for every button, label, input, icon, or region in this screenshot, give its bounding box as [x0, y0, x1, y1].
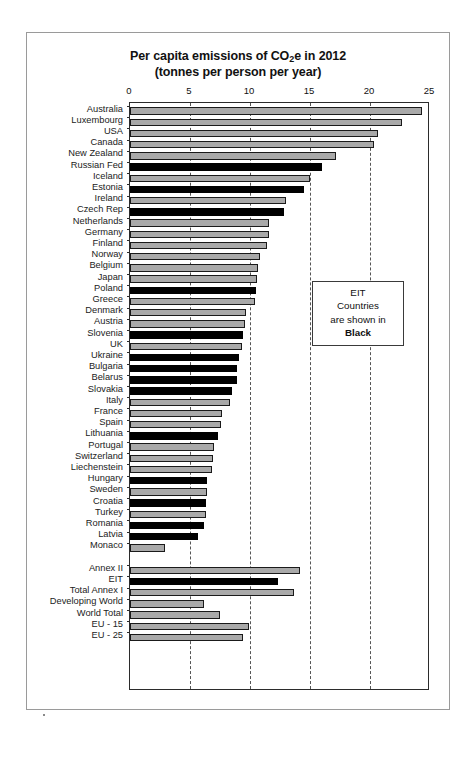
bar-row	[130, 229, 428, 240]
bar-japan	[130, 275, 257, 282]
x-axis-tick-labels: 0510152025	[27, 85, 451, 101]
bar-row	[130, 117, 428, 128]
category-label-japan: Japan	[98, 272, 123, 283]
bar-greece	[130, 298, 255, 305]
bar-row	[130, 263, 428, 274]
bar-row	[130, 431, 428, 442]
legend-line-1: EIT	[319, 286, 396, 300]
category-label-estonia: Estonia	[92, 182, 123, 193]
bar-sweden	[130, 488, 207, 495]
bar-ireland	[130, 197, 286, 204]
bar-row	[130, 420, 428, 431]
category-label-canada: Canada	[90, 137, 123, 148]
category-label-ukraine: Ukraine	[91, 350, 123, 361]
bar-portugal	[130, 443, 214, 450]
bar-row	[130, 442, 428, 453]
category-label-norway: Norway	[91, 249, 123, 260]
bar-row	[130, 140, 428, 151]
bar-row	[130, 240, 428, 251]
x-tick-label-5: 5	[186, 85, 191, 96]
bar-row	[130, 386, 428, 397]
bar-denmark	[130, 309, 246, 316]
bar-uk	[130, 343, 242, 350]
category-label-developing-world: Developing World	[50, 596, 123, 607]
bar-row	[130, 588, 428, 599]
bar-liechenstein	[130, 466, 212, 473]
bar-total-annex-i	[130, 589, 294, 596]
scanned-page-frame: Per capita emissions of CO2e in 2012 (to…	[26, 32, 450, 710]
bar-romania	[130, 522, 204, 529]
bar-row	[130, 207, 428, 218]
bar-developing-world	[130, 600, 204, 607]
bar-spain	[130, 421, 221, 428]
category-label-portugal: Portugal	[88, 440, 123, 451]
category-label-russian-fed: Russian Fed	[71, 160, 123, 171]
category-label-bulgaria: Bulgaria	[89, 361, 123, 372]
bar-norway	[130, 253, 260, 260]
bar-australia	[130, 107, 422, 114]
bar-row	[130, 196, 428, 207]
bar-world-total	[130, 611, 220, 618]
bar-russian-fed	[130, 163, 322, 170]
bar-germany	[130, 231, 269, 238]
bar-monaco	[130, 544, 165, 551]
bar-netherlands	[130, 219, 269, 226]
bar-row	[130, 408, 428, 419]
bar-rows	[130, 103, 428, 689]
category-label-lithuania: Lithuania	[85, 428, 123, 439]
bar-row	[130, 532, 428, 543]
category-label-belgium: Belgium	[89, 260, 123, 271]
category-label-greece: Greece	[93, 294, 124, 305]
bar-switzerland	[130, 455, 213, 462]
bar-luxembourg	[130, 119, 402, 126]
plot-wrapper: 0510152025 AustraliaLuxembourgUSACanadaN…	[27, 85, 451, 697]
co2-subscript: 2	[289, 54, 294, 64]
category-label-germany: Germany	[85, 227, 123, 238]
category-label-hungary: Hungary	[88, 473, 123, 484]
category-label-australia: Australia	[87, 104, 123, 115]
scan-speck	[43, 714, 45, 716]
bar-belgium	[130, 264, 258, 271]
bar-ukraine	[130, 354, 239, 361]
bar-row	[130, 554, 428, 565]
category-label-world-total: World Total	[77, 608, 123, 619]
bar-new-zealand	[130, 152, 336, 159]
category-label-iceland: Iceland	[93, 171, 123, 182]
bar-row	[130, 487, 428, 498]
bar-row	[130, 218, 428, 229]
category-label-croatia: Croatia	[93, 496, 123, 507]
category-label-eu---15: EU - 15	[91, 619, 123, 630]
category-label-uk: UK	[110, 339, 123, 350]
bar-row	[130, 364, 428, 375]
bar-row	[130, 576, 428, 587]
bar-row	[130, 498, 428, 509]
x-tick-label-25: 25	[424, 85, 435, 96]
bar-row	[130, 565, 428, 576]
bar-row	[130, 476, 428, 487]
category-label-romania: Romania	[86, 518, 123, 529]
bar-row	[130, 106, 428, 117]
category-label-belarus: Belarus	[91, 372, 123, 383]
bar-belarus	[130, 376, 237, 383]
category-label-eu---25: EU - 25	[91, 630, 123, 641]
category-label-total-annex-i: Total Annex I	[70, 585, 123, 596]
x-tick-label-10: 10	[244, 85, 255, 96]
category-label-austria: Austria	[94, 316, 123, 327]
bar-row	[130, 621, 428, 632]
chart-title: Per capita emissions of CO2e in 2012 (to…	[27, 49, 449, 80]
bar-usa	[130, 130, 378, 137]
bar-eu---25	[130, 634, 243, 641]
category-label-usa: USA	[104, 126, 123, 137]
bar-row	[130, 352, 428, 363]
bar-latvia	[130, 533, 198, 540]
category-label-france: France	[94, 406, 123, 417]
bar-row	[130, 151, 428, 162]
category-label-eit: EIT	[109, 574, 123, 585]
bar-row	[130, 173, 428, 184]
category-label-poland: Poland	[94, 283, 123, 294]
category-label-czech-rep: Czech Rep	[77, 204, 123, 215]
bar-row	[130, 632, 428, 643]
bar-finland	[130, 242, 267, 249]
category-label-slovenia: Slovenia	[87, 328, 123, 339]
bar-row	[130, 252, 428, 263]
